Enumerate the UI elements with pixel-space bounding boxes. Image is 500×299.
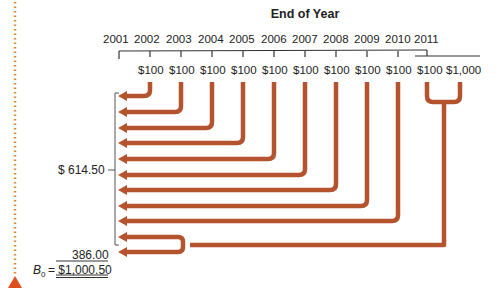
discount-arrows bbox=[125, 82, 460, 252]
bond-symbol: B bbox=[33, 263, 41, 277]
triangle-icon bbox=[8, 276, 22, 288]
arrow-heads bbox=[118, 91, 127, 257]
bond-subscript: 0 bbox=[41, 270, 45, 279]
pv-par-label: 386.00 bbox=[72, 248, 109, 262]
total-value: = $1,000.50 bbox=[48, 263, 112, 277]
annuity-bracket bbox=[108, 93, 119, 245]
pv-annuity-label: $ 614.50 bbox=[58, 163, 105, 177]
total-label-prefix: B0 bbox=[33, 263, 45, 279]
timeline-axis bbox=[119, 50, 480, 59]
